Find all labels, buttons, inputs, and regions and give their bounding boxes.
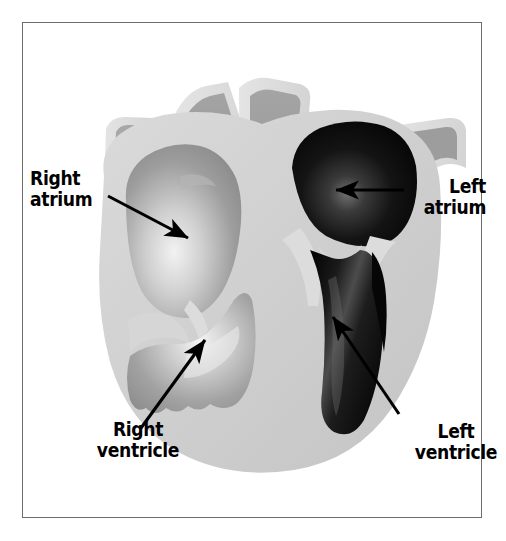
label-right-ventricle: Right ventricle bbox=[69, 419, 207, 461]
label-right-atrium: Right atrium bbox=[30, 168, 92, 210]
figure-canvas: Right atrium Left atrium Right ventricle… bbox=[0, 0, 506, 541]
label-left-atrium: Left atrium bbox=[342, 176, 486, 218]
label-left-ventricle: Left ventricle bbox=[396, 421, 506, 463]
